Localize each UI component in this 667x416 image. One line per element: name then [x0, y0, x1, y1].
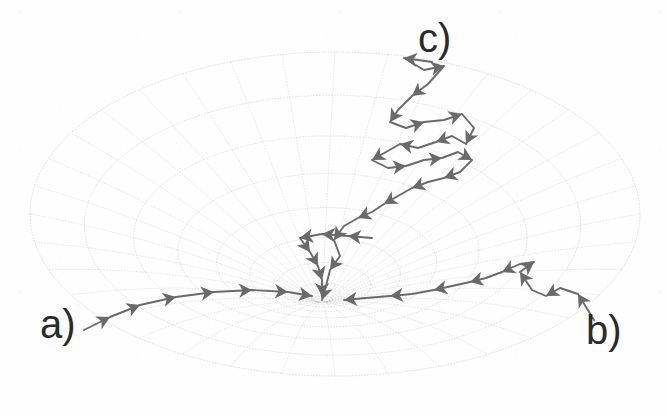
trajectory-arrowhead	[312, 266, 329, 282]
arrowhead-glyph	[312, 266, 329, 282]
trajectory-arrowhead	[499, 260, 517, 278]
trajectory-path-b	[344, 262, 594, 320]
grid-line	[250, 237, 400, 311]
arrowhead-glyph	[95, 311, 113, 330]
arrowhead-glyph	[398, 137, 414, 154]
trajectory-arrowhead	[519, 256, 538, 275]
trajectory-arrowhead	[409, 115, 426, 133]
trajectory-arrowhead	[408, 82, 427, 101]
grid-line	[139, 90, 319, 302]
trajectory-arrowhead	[447, 107, 464, 125]
figure-root: a) b) c)	[0, 0, 667, 416]
grid-line	[324, 302, 440, 366]
label-a: a)	[40, 304, 76, 344]
trajectory-layer	[84, 51, 594, 330]
grid-line	[325, 302, 531, 338]
trajectory-arrowhead	[468, 272, 484, 289]
arrowhead-glyph	[409, 115, 426, 133]
grid-line	[30, 52, 640, 376]
grid-line	[282, 54, 321, 302]
arrowhead-glyph	[519, 256, 538, 275]
label-b: b)	[586, 310, 622, 350]
arrowhead-glyph	[460, 129, 479, 147]
grid-line	[231, 302, 321, 366]
trajectory-arrowhead	[432, 280, 448, 297]
arrowhead-glyph	[162, 290, 178, 307]
manifold-grid	[30, 52, 640, 376]
arrowhead-glyph	[433, 131, 450, 149]
grid-line	[183, 302, 320, 354]
grid-line	[30, 214, 317, 302]
trajectory-arrowhead	[355, 206, 373, 224]
trajectory-arrowhead	[324, 255, 343, 274]
trajectory-arrowhead	[460, 129, 479, 147]
arrowhead-glyph	[441, 167, 458, 185]
grid-line	[324, 62, 440, 302]
grid-line	[326, 298, 569, 318]
arrowhead-glyph	[514, 268, 533, 287]
trajectory-figure-svg	[0, 0, 667, 416]
trajectory-arrowhead	[398, 137, 414, 154]
trajectory-arrowhead	[441, 167, 458, 185]
arrowhead-glyph	[408, 82, 427, 101]
trajectory-arrowhead	[162, 290, 178, 307]
trajectory-arrowhead	[95, 311, 113, 330]
grid-line	[327, 214, 640, 302]
arrowhead-glyph	[499, 260, 517, 278]
trajectory-arrowhead	[433, 131, 450, 149]
grid-line	[327, 242, 636, 302]
arrowhead-glyph	[324, 255, 343, 274]
label-c: c)	[418, 18, 451, 58]
grid-line	[323, 302, 388, 374]
grid-line	[84, 95, 581, 355]
grid-line	[231, 62, 321, 302]
arrowhead-glyph	[447, 107, 464, 125]
grid-line	[183, 74, 320, 302]
grid-line	[324, 74, 487, 302]
grid-line	[35, 242, 318, 302]
arrowhead-glyph	[468, 272, 484, 289]
grid-line	[139, 302, 319, 338]
arrowhead-glyph	[355, 206, 373, 224]
grid-line	[282, 302, 321, 374]
arrowhead-glyph	[432, 280, 448, 297]
trajectory-arrowhead	[514, 268, 533, 287]
